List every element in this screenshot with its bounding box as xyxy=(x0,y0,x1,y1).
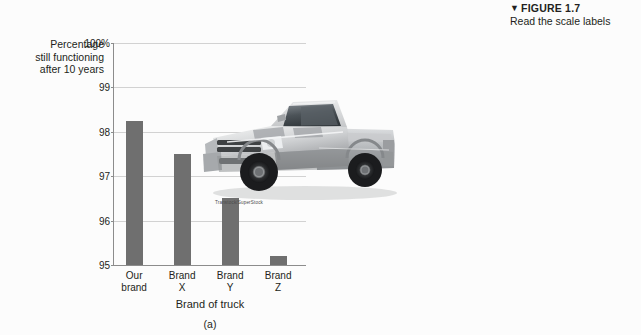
gridline xyxy=(114,221,306,222)
chart-panel-b: Percentage still functioning after 10 ye… xyxy=(320,0,641,335)
photo-credit: Transtock/SuperStock xyxy=(215,200,263,205)
y-tick-mark xyxy=(111,265,114,266)
y-tick-mark xyxy=(111,221,114,222)
x-axis-title-a: Brand of truck xyxy=(114,298,306,310)
y-tick-label: 98 xyxy=(99,126,110,137)
bar xyxy=(270,256,287,265)
bar xyxy=(126,121,143,265)
y-tick-label: 95 xyxy=(99,260,110,271)
y-tick-mark xyxy=(111,176,114,177)
x-category-label: Our brand xyxy=(109,270,159,294)
gridline xyxy=(114,43,306,44)
x-category-label: Brand Y xyxy=(205,270,255,294)
bar xyxy=(174,154,191,265)
y-tick-label: 97 xyxy=(99,171,110,182)
x-category-label: Brand Z xyxy=(253,270,303,294)
y-tick-mark xyxy=(111,87,114,88)
bar xyxy=(222,198,239,265)
figure-page: ▼FIGURE 1.7 Read the scale labels Percen… xyxy=(0,0,641,335)
y-tick-label: 96 xyxy=(99,215,110,226)
y-tick-label: 100% xyxy=(84,38,110,49)
y-tick-mark xyxy=(111,132,114,133)
x-category-label: Brand X xyxy=(157,270,207,294)
y-tick-mark xyxy=(111,43,114,44)
panel-label-a: (a) xyxy=(114,318,306,330)
y-tick-label: 99 xyxy=(99,82,110,93)
